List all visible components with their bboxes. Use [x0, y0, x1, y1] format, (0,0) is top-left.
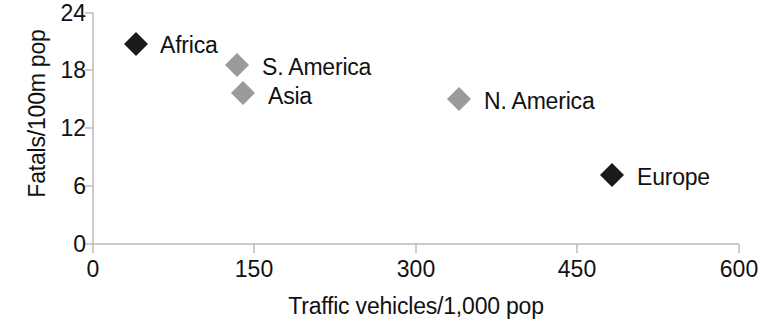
data-point-marker-s-america: [225, 53, 249, 77]
data-point-label-asia: Asia: [268, 83, 312, 110]
data-point-marker-n-america: [447, 87, 471, 111]
y-tick-label-12: 12: [40, 117, 86, 140]
y-axis-ticks: [85, 13, 93, 244]
x-axis-title: Traffic vehicles/1,000 pop: [93, 293, 739, 320]
y-tick-label-group: 24 18 12 6 0: [0, 0, 86, 260]
x-tick-label-150: 150: [219, 258, 289, 281]
data-point-label-n-america: N. America: [484, 88, 594, 115]
x-tick-label-450: 450: [542, 258, 612, 281]
y-tick-label-0: 0: [40, 233, 86, 256]
y-tick-label-6: 6: [40, 175, 86, 198]
x-tick-label-300: 300: [381, 258, 451, 281]
scatter-chart: Fatals/100m pop Traffic vehicles/1,000 p…: [0, 0, 760, 328]
y-tick-label-24: 24: [40, 2, 86, 25]
x-tick-label-0: 0: [58, 258, 128, 281]
data-point-label-africa: Africa: [160, 32, 218, 59]
x-tick-label-600: 600: [704, 258, 760, 281]
y-tick-label-18: 18: [40, 59, 86, 82]
data-point-marker-africa: [124, 32, 148, 56]
x-axis-ticks: [93, 244, 739, 253]
data-point-marker-europe: [600, 163, 624, 187]
data-point-label-europe: Europe: [637, 164, 710, 191]
data-point-marker-asia: [231, 81, 255, 105]
data-point-label-s-america: S. America: [262, 54, 371, 81]
